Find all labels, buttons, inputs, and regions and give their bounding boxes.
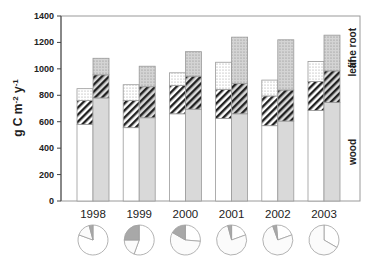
pie-insets [78,225,339,255]
bar-2001-left [216,62,232,201]
y-tick-label: 400 [39,143,54,153]
pie-2001 [217,225,247,255]
y-tick-label: 0 [49,196,54,206]
bar-2003-left [308,62,324,201]
pie-1999 [124,225,154,255]
bar-2002-right [278,40,294,201]
bar-2000-left [169,73,185,201]
bar-1999-left [123,85,139,201]
x-tick-label: 1998 [80,208,106,220]
bars [77,35,340,201]
bar-2003-right [324,35,340,201]
bar-1998-left [77,89,93,201]
y-tick-label: 600 [39,117,54,127]
x-tick-label: 1999 [126,208,152,220]
y-tick-label: 1000 [34,64,54,74]
y-axis-label: g C m-2 y-1 [11,79,25,137]
bar-1998-right [93,58,109,201]
bar-2000-right [185,52,201,201]
pie-2003 [309,225,339,255]
x-tick-label: 2003 [311,208,337,220]
pie-2002 [263,225,293,255]
y-tick-label: 800 [39,90,54,100]
x-tick-label: 2001 [219,208,245,220]
bar-1999-right [139,66,155,201]
npp-chart: 0200400600800100012001400 19981999200020… [0,0,376,267]
x-tick-label: 2000 [173,208,199,220]
x-tick-label: 2002 [265,208,291,220]
y-tick-label: 1200 [34,37,54,47]
pie-1998 [78,225,108,255]
y-tick-label: 1400 [34,11,54,21]
x-axis-labels: 199819992000200120022003 [80,208,337,220]
legend-label-wood: wood [347,139,358,166]
y-tick-label: 200 [39,170,54,180]
legend-label-leaf: leaf [347,59,358,77]
bar-2001-right [232,37,248,201]
pie-2000 [170,225,200,255]
y-axis: 0200400600800100012001400 [34,11,61,206]
bar-2002-left [262,80,278,201]
